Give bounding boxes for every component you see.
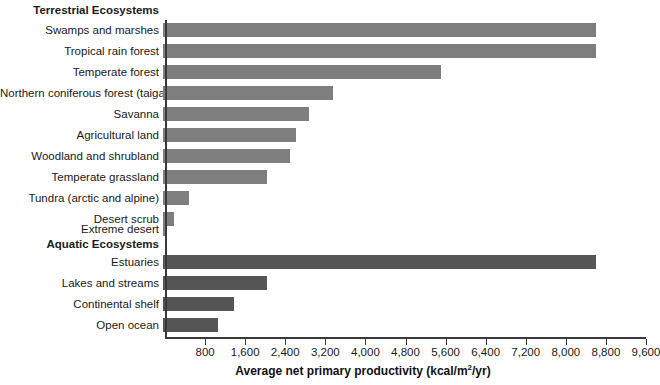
group-header-spacer [163, 0, 651, 20]
x-axis-tick [365, 339, 366, 345]
bar-lakes-and-streams [163, 276, 267, 290]
bar-track [163, 273, 651, 293]
group-header-terrestrial-label: Terrestrial Ecosystems [0, 4, 163, 17]
x-axis-tick [245, 339, 246, 345]
group-header-terrestrial: Terrestrial Ecosystems [0, 0, 651, 20]
category-label-savanna: Savanna [0, 108, 163, 121]
category-label-northern-coniferous-forest: Northern coniferous forest (taiga) [0, 87, 163, 100]
bar-open-ocean [163, 318, 218, 332]
x-axis-tick-label: 7,200 [511, 346, 540, 359]
bar-continental-shelf [163, 297, 234, 311]
y-axis-line [165, 20, 167, 338]
x-axis-tick [566, 339, 567, 345]
table-row: Woodland and shrubland [0, 146, 651, 166]
group-header-spacer [163, 234, 651, 254]
bar-estuaries [163, 255, 596, 269]
bar-track [163, 83, 651, 103]
group-header-aquatic: Aquatic Ecosystems [0, 234, 651, 254]
table-row: Tropical rain forest [0, 41, 651, 61]
x-axis-tick-label: 8,000 [551, 346, 580, 359]
x-axis-tick-label: 6,400 [471, 346, 500, 359]
group-header-aquatic-label: Aquatic Ecosystems [0, 238, 163, 251]
table-row: Agricultural land [0, 125, 651, 145]
x-axis-tick [486, 339, 487, 345]
x-axis-tick-label: 8,800 [592, 346, 621, 359]
x-axis-tick [606, 339, 607, 345]
x-axis-tick-label: 1,600 [231, 346, 260, 359]
bar-track [163, 252, 651, 272]
x-axis-tick [285, 339, 286, 345]
bar-temperate-grassland [163, 170, 267, 184]
bar-woodland-and-shrubland [163, 149, 290, 163]
table-row: Savanna [0, 104, 651, 124]
bar-track [163, 62, 651, 82]
category-label-woodland-and-shrubland: Woodland and shrubland [0, 150, 163, 163]
bar-track [163, 294, 651, 314]
bar-northern-coniferous-forest [163, 86, 333, 100]
x-axis-tick [406, 339, 407, 345]
category-label-open-ocean: Open ocean [0, 319, 163, 332]
table-row: Swamps and marshes [0, 20, 651, 40]
bar-tropical-rain-forest [163, 44, 596, 58]
x-axis-tick-label: 3,200 [311, 346, 340, 359]
x-axis-title: Average net primary productivity (kcal/m… [0, 364, 651, 378]
category-label-temperate-forest: Temperate forest [0, 66, 163, 79]
bar-track [163, 125, 651, 145]
x-axis-tick-label: 2,400 [271, 346, 300, 359]
table-row: Northern coniferous forest (taiga) [0, 83, 651, 103]
x-axis-tick [325, 339, 326, 345]
x-axis-tick-label: 4,800 [391, 346, 420, 359]
bar-track [163, 20, 651, 40]
bar-track [163, 104, 651, 124]
bar-temperate-forest [163, 65, 441, 79]
table-row: Tundra (arctic and alpine) [0, 188, 651, 208]
bar-agricultural-land [163, 128, 296, 142]
bar-track [163, 167, 651, 187]
category-label-swamps-and-marshes: Swamps and marshes [0, 24, 163, 37]
category-label-tropical-rain-forest: Tropical rain forest [0, 45, 163, 58]
category-label-tundra: Tundra (arctic and alpine) [0, 192, 163, 205]
x-axis-tick-label: 800 [195, 346, 214, 359]
table-row: Lakes and streams [0, 273, 651, 293]
category-label-continental-shelf: Continental shelf [0, 298, 163, 311]
x-axis-tick [446, 339, 447, 345]
x-axis-tick-label: 4,000 [351, 346, 380, 359]
bar-track [163, 188, 651, 208]
bar-track [163, 315, 651, 335]
table-row: Continental shelf [0, 294, 651, 314]
table-row: Temperate forest [0, 62, 651, 82]
x-axis-tick [646, 339, 647, 345]
table-row: Estuaries [0, 252, 651, 272]
category-label-agricultural-land: Agricultural land [0, 129, 163, 142]
bar-savanna [163, 107, 309, 121]
x-axis-tick-label: 9,600 [632, 346, 660, 359]
x-axis-tick [526, 339, 527, 345]
category-label-lakes-and-streams: Lakes and streams [0, 277, 163, 290]
bar-track [163, 146, 651, 166]
table-row: Open ocean [0, 315, 651, 335]
x-axis-tick [205, 339, 206, 345]
x-axis-tick-label: 5,600 [431, 346, 460, 359]
bar-track [163, 41, 651, 61]
bar-swamps-and-marshes [163, 23, 596, 37]
category-label-temperate-grassland: Temperate grassland [0, 171, 163, 184]
table-row: Temperate grassland [0, 167, 651, 187]
category-label-estuaries: Estuaries [0, 256, 163, 269]
